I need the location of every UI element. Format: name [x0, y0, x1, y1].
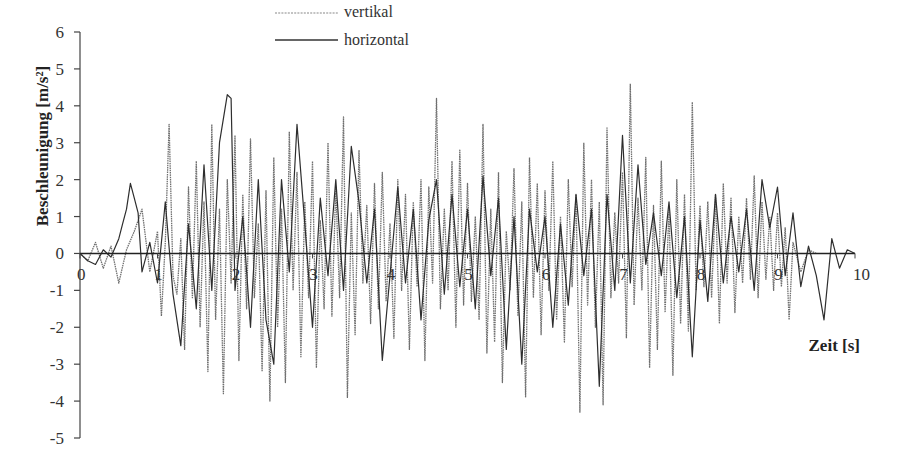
x-tick-label: 8 [697, 265, 706, 284]
x-tick-label: 9 [774, 265, 783, 284]
y-tick-label: 3 [56, 134, 65, 153]
x-tick-label: 7 [619, 265, 628, 284]
legend-label-vertikal: vertikal [344, 3, 393, 20]
y-tick-label: -5 [50, 429, 64, 448]
plot-area [80, 84, 855, 413]
acceleration-chart: 6543210-1-2-3-4-5 012345678910 vertikal … [0, 0, 898, 472]
y-axis: 6543210-1-2-3-4-5 [50, 23, 80, 448]
y-tick-label: -3 [50, 355, 64, 374]
x-tick-label: 3 [309, 265, 318, 284]
y-tick-label: -4 [50, 392, 65, 411]
x-tick-label: 1 [154, 265, 163, 284]
x-tick-label: 0 [77, 265, 86, 284]
x-tick-label: 2 [232, 265, 241, 284]
series-horizontal [80, 95, 855, 387]
x-tick-label: 6 [542, 265, 551, 284]
y-tick-label: -1 [50, 281, 64, 300]
x-tick-label: 4 [387, 265, 396, 284]
x-tick-label: 5 [464, 265, 473, 284]
x-tick-label: 10 [853, 265, 870, 284]
legend: vertikal horizontal [275, 3, 409, 48]
y-tick-label: 6 [56, 23, 65, 42]
legend-label-horizontal: horizontal [344, 31, 409, 48]
y-tick-label: 1 [56, 208, 65, 227]
y-tick-label: 0 [56, 244, 65, 263]
y-tick-label: 4 [56, 97, 65, 116]
y-tick-label: -2 [50, 318, 64, 337]
y-tick-label: 2 [56, 171, 65, 190]
x-axis-title: Zeit [s] [809, 336, 860, 355]
y-axis-title: Beschleunigung [m/s²] [33, 66, 52, 226]
y-tick-label: 5 [56, 60, 65, 79]
